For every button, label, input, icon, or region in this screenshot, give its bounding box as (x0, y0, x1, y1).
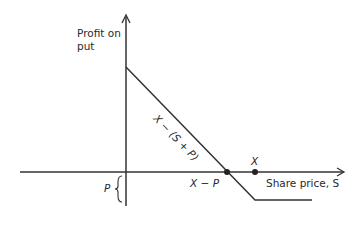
breakeven-label: X − P (190, 177, 219, 190)
premium-label: P (104, 182, 110, 195)
y-axis-label-line1: Profit on (77, 27, 121, 40)
y-axis-label: Profit on put (77, 27, 121, 53)
strike-point (252, 169, 258, 175)
x-axis-label: Share price, S (266, 177, 339, 190)
premium-brace-icon (115, 176, 122, 202)
y-axis-label-line2: put (77, 40, 121, 53)
strike-label: X (251, 155, 258, 168)
breakeven-point (224, 169, 230, 175)
